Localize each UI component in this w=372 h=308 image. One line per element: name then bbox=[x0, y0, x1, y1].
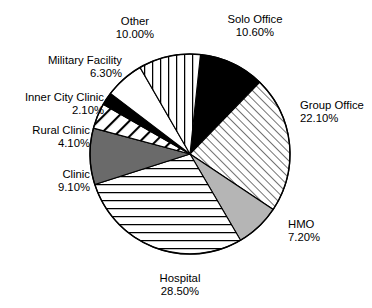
pie-label-value: 10.00% bbox=[97, 28, 173, 41]
pie-label-name: Inner City Clinic bbox=[0, 91, 104, 104]
pie-label-value: 9.10% bbox=[16, 181, 90, 194]
pie-label-hospital: Hospital28.50% bbox=[135, 272, 225, 298]
pie-label-name: Hospital bbox=[135, 272, 225, 285]
pie-label-hmo: HMO7.20% bbox=[288, 218, 358, 244]
pie-label-name: Solo Office bbox=[205, 13, 305, 26]
pie-label-clinic: Clinic9.10% bbox=[16, 168, 90, 194]
pie-label-value: 28.50% bbox=[135, 285, 225, 298]
pie-label-value: 2.10% bbox=[0, 104, 104, 117]
pie-label-name: Group Office bbox=[300, 99, 372, 112]
pie-label-other: Other10.00% bbox=[97, 15, 173, 41]
pie-label-solo-office: Solo Office10.60% bbox=[205, 13, 305, 39]
pie-label-rural-clinic: Rural Clinic4.10% bbox=[8, 124, 90, 150]
pie-label-value: 7.20% bbox=[288, 231, 358, 244]
pie-label-name: Other bbox=[97, 15, 173, 28]
pie-label-name: Clinic bbox=[16, 168, 90, 181]
pie-label-inner-city-clinic: Inner City Clinic2.10% bbox=[0, 91, 104, 117]
pie-chart: Solo Office10.60%Group Office22.10%HMO7.… bbox=[0, 0, 372, 308]
pie-label-value: 22.10% bbox=[300, 112, 372, 125]
pie-label-value: 4.10% bbox=[8, 137, 90, 150]
pie-chart-canvas bbox=[0, 0, 372, 308]
pie-label-name: HMO bbox=[288, 218, 358, 231]
pie-label-value: 6.30% bbox=[22, 67, 122, 80]
pie-label-name: Military Facility bbox=[22, 54, 122, 67]
pie-label-military-facility: Military Facility6.30% bbox=[22, 54, 122, 80]
pie-label-group-office: Group Office22.10% bbox=[300, 99, 372, 125]
pie-label-value: 10.60% bbox=[205, 26, 305, 39]
pie-label-name: Rural Clinic bbox=[8, 124, 90, 137]
